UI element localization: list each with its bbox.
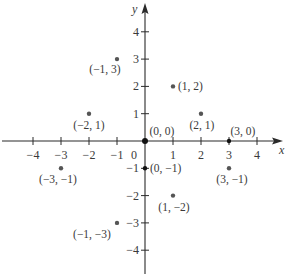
- y-axis-label: y: [131, 2, 138, 16]
- x-tick-label: −2: [83, 148, 96, 162]
- data-point: [171, 193, 175, 197]
- x-axis-label: x: [278, 143, 285, 157]
- data-point: [115, 57, 119, 61]
- point-labels: (−1, 3)(1, 2)(−2, 1)(2, 1)(0, 0)(3, 0)(−…: [39, 63, 256, 241]
- data-point: [227, 139, 231, 143]
- data-point: [87, 112, 91, 116]
- data-point: [142, 138, 148, 144]
- data-point: [59, 166, 63, 170]
- point-label: (−3, −1): [39, 173, 77, 186]
- point-label: (−1, 3): [89, 63, 121, 76]
- point-label: (1, 2): [178, 80, 203, 93]
- x-tick-label: 3: [226, 148, 232, 162]
- y-tick-label: 4: [133, 25, 139, 39]
- data-point: [143, 166, 147, 170]
- x-tick-label: 1: [170, 148, 176, 162]
- data-point: [115, 221, 119, 225]
- x-tick-label: 2: [198, 148, 204, 162]
- y-tick-label: −3: [126, 216, 139, 230]
- axes: xy: [2, 2, 285, 274]
- point-label: (−1, −3): [73, 228, 111, 241]
- y-tick-label: 3: [133, 52, 139, 66]
- y-tick-label: −2: [126, 189, 139, 203]
- data-point: [199, 112, 203, 116]
- x-tick-label: 0: [131, 148, 137, 162]
- point-label: (0, 0): [150, 125, 175, 138]
- point-label: (3, 0): [231, 125, 256, 138]
- x-tick-label: 4: [254, 148, 260, 162]
- y-tick-label: 1: [133, 107, 139, 121]
- y-tick-label: −1: [126, 161, 139, 175]
- x-tick-label: −4: [27, 148, 40, 162]
- point-label: (0, −1): [150, 162, 182, 175]
- point-label: (3, −1): [216, 173, 248, 186]
- coordinate-plane-chart: xy −4−3−2−101234−4−3−2−11234 (−1, 3)(1, …: [0, 0, 290, 276]
- point-label: (2, 1): [190, 119, 215, 132]
- y-tick-label: 2: [133, 79, 139, 93]
- x-tick-label: −3: [55, 148, 68, 162]
- y-tick-label: −4: [126, 243, 139, 257]
- data-point: [227, 166, 231, 170]
- point-label: (−2, 1): [73, 119, 105, 132]
- x-tick-label: −1: [111, 148, 124, 162]
- point-label: (1, −2): [158, 201, 190, 214]
- data-point: [171, 84, 175, 88]
